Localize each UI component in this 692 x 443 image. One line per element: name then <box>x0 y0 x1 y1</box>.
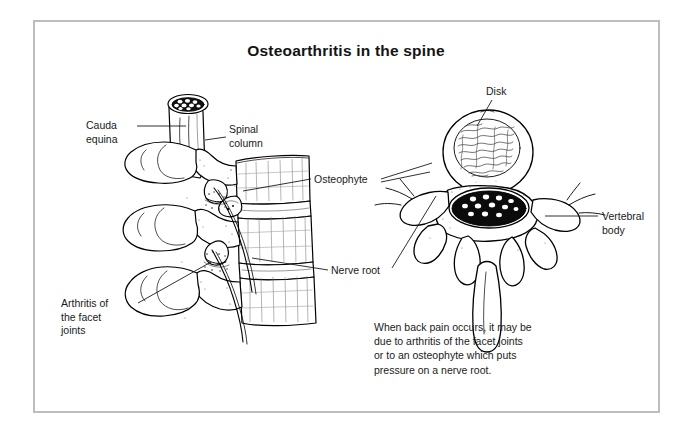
figure-container: Osteoarthritis in the spine <box>0 0 692 443</box>
label-nerve-root: Nerve root <box>331 264 380 278</box>
leader-spinal-column <box>205 137 226 140</box>
articular-process-left <box>414 224 447 263</box>
label-arthritis-facet-joints: Arthritis of the facet joints <box>61 297 108 338</box>
transverse-process-right <box>531 199 580 232</box>
vertebra-1 <box>125 142 310 204</box>
anatomical-artwork <box>0 0 692 443</box>
label-osteophyte: Osteophyte <box>314 173 368 187</box>
label-spinal-column: Spinal column <box>229 123 263 150</box>
figure-caption: When back pain occurs, it may be due to … <box>374 320 534 377</box>
spinal-canal-axial <box>449 188 529 228</box>
cauda-equina-cross-section <box>168 95 208 114</box>
label-disk: Disk <box>486 85 506 99</box>
intervertebral-disk-1 <box>237 201 311 219</box>
label-cauda-equina: Cauda equina <box>86 119 118 146</box>
intervertebral-disk-axial <box>443 110 533 194</box>
pedicle-right <box>500 237 524 286</box>
axial-vertebra-view <box>375 110 605 352</box>
label-vertebral-body: Vertebral body <box>602 210 644 237</box>
lateral-spine-view <box>123 95 316 345</box>
articular-process-right <box>525 228 557 269</box>
